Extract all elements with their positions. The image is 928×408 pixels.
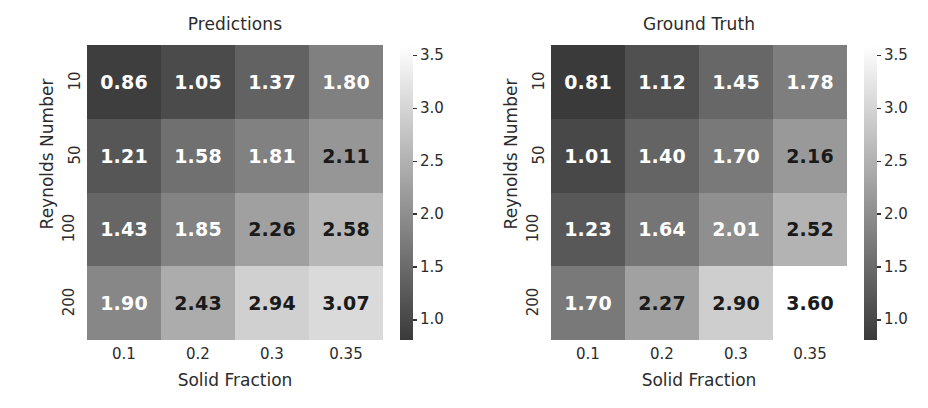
heatmap-cell: 2.52 xyxy=(773,193,847,267)
colorbar-tick-label: 2.0 xyxy=(420,207,444,222)
colorbar-tick-mark xyxy=(877,55,881,56)
x-axis-label: Solid Fraction xyxy=(87,370,383,390)
x-axis-tick-label: 0.35 xyxy=(309,345,383,363)
colorbar-tick-label: 3.5 xyxy=(884,48,908,63)
heatmap-cell: 2.11 xyxy=(309,119,383,193)
colorbar-tick-mark xyxy=(413,55,417,56)
colorbar-tick-mark xyxy=(877,213,881,214)
colorbar-tick-mark xyxy=(413,266,417,267)
x-axis-tick-label: 0.1 xyxy=(551,345,625,363)
colorbar-tick-mark xyxy=(877,319,881,320)
heatmap-cell: 1.43 xyxy=(87,193,161,267)
heatmap-cell: 2.94 xyxy=(235,266,309,340)
heatmap-cell: 3.60 xyxy=(773,266,847,340)
colorbar-tick-mark xyxy=(413,161,417,162)
heatmap-cell: 1.58 xyxy=(161,119,235,193)
colorbar-tick-mark xyxy=(877,108,881,109)
heatmap-cell: 1.12 xyxy=(625,45,699,119)
x-axis-tick-label: 0.2 xyxy=(161,345,235,363)
y-axis-tick-label: 50 xyxy=(464,146,548,164)
y-axis-tick-label: 10 xyxy=(464,72,548,90)
colorbar-tick-label: 2.5 xyxy=(420,154,444,169)
panel-title: Predictions xyxy=(87,14,383,34)
colorbar-tick-mark xyxy=(413,108,417,109)
heatmap-cell: 1.21 xyxy=(87,119,161,193)
colorbar-tick-label: 3.5 xyxy=(420,48,444,63)
x-axis-tick-label: 0.3 xyxy=(699,345,773,363)
heatmap-cell: 0.81 xyxy=(551,45,625,119)
heatmap-cell: 1.80 xyxy=(309,45,383,119)
x-axis-tick-label: 0.3 xyxy=(235,345,309,363)
colorbar-ticks: 3.53.02.52.01.51.0 xyxy=(400,45,464,340)
panel-title: Ground Truth xyxy=(551,14,847,34)
y-axis-tick-label: 50 xyxy=(0,146,84,164)
heatmap-cell: 1.70 xyxy=(551,266,625,340)
heatmap-cell: 2.16 xyxy=(773,119,847,193)
heatmap-cell: 2.26 xyxy=(235,193,309,267)
heatmap-cell: 2.90 xyxy=(699,266,773,340)
heatmap-cell: 3.07 xyxy=(309,266,383,340)
heatmap-cell: 1.90 xyxy=(87,266,161,340)
heatmap-grid: 0.811.121.451.781.011.401.702.161.231.64… xyxy=(551,45,847,340)
x-axis-ticks: 0.10.20.30.35 xyxy=(551,345,847,363)
x-axis-tick-label: 0.1 xyxy=(87,345,161,363)
x-axis-label: Solid Fraction xyxy=(551,370,847,390)
colorbar-tick-label: 2.5 xyxy=(884,154,908,169)
heatmap-cell: 1.81 xyxy=(235,119,309,193)
heatmap-cell: 1.40 xyxy=(625,119,699,193)
figure-root: Predictions Reynolds Number 0.861.051.37… xyxy=(0,0,928,408)
colorbar-tick-label: 1.5 xyxy=(420,260,444,275)
colorbar-tick-mark xyxy=(877,266,881,267)
heatmap-cell: 1.78 xyxy=(773,45,847,119)
colorbar-tick-label: 1.0 xyxy=(420,312,444,327)
colorbar-tick-mark xyxy=(877,161,881,162)
heatmap-cell: 1.01 xyxy=(551,119,625,193)
heatmap-cell: 1.70 xyxy=(699,119,773,193)
colorbar-tick-label: 3.0 xyxy=(884,101,908,116)
colorbar-tick-label: 3.0 xyxy=(420,101,444,116)
heatmap-cell: 1.85 xyxy=(161,193,235,267)
x-axis-tick-label: 0.35 xyxy=(773,345,847,363)
colorbar-tick-label: 1.0 xyxy=(884,312,908,327)
heatmap-cell: 2.27 xyxy=(625,266,699,340)
colorbar-ticks: 3.53.02.52.01.51.0 xyxy=(864,45,928,340)
y-axis-tick-label: 10 xyxy=(0,72,84,90)
heatmap-cell: 2.43 xyxy=(161,266,235,340)
y-axis-tick-label: 100 xyxy=(464,219,548,237)
x-axis-ticks: 0.10.20.30.35 xyxy=(87,345,383,363)
colorbar-tick-label: 2.0 xyxy=(884,207,908,222)
colorbar-tick-label: 1.5 xyxy=(884,260,908,275)
heatmap-cell: 0.86 xyxy=(87,45,161,119)
y-axis-tick-label: 200 xyxy=(464,293,548,311)
colorbar-tick-mark xyxy=(413,213,417,214)
panel-ground-truth: Ground Truth Reynolds Number 0.811.121.4… xyxy=(464,0,928,408)
y-axis-tick-label: 100 xyxy=(0,219,84,237)
heatmap-cell: 2.01 xyxy=(699,193,773,267)
heatmap-cell: 1.37 xyxy=(235,45,309,119)
heatmap-cell: 1.64 xyxy=(625,193,699,267)
heatmap-cell: 1.45 xyxy=(699,45,773,119)
heatmap-cell: 1.23 xyxy=(551,193,625,267)
colorbar-tick-mark xyxy=(413,319,417,320)
x-axis-tick-label: 0.2 xyxy=(625,345,699,363)
heatmap-grid: 0.861.051.371.801.211.581.812.111.431.85… xyxy=(87,45,383,340)
panel-predictions: Predictions Reynolds Number 0.861.051.37… xyxy=(0,0,464,408)
y-axis-tick-label: 200 xyxy=(0,293,84,311)
heatmap-cell: 1.05 xyxy=(161,45,235,119)
heatmap-cell: 2.58 xyxy=(309,193,383,267)
